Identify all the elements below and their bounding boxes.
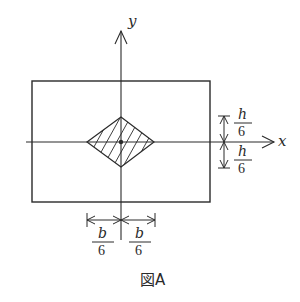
cross-section-diagram [0,0,300,302]
b-right-numerator: b [135,225,144,241]
y-axis-label: y [128,12,136,30]
h-upper-numerator: h [238,106,247,122]
centroid-dot [119,140,123,144]
b-right-denominator: 6 [135,243,142,259]
b-left-numerator: b [98,225,107,241]
h-lower-numerator: h [238,143,247,159]
h-lower-denominator: 6 [238,161,245,177]
b-left-denominator: 6 [98,243,105,259]
h-upper-denominator: 6 [238,124,245,140]
core-hatching [50,100,190,190]
figure-caption: 図A [140,268,165,289]
x-axis-label: x [278,132,286,150]
